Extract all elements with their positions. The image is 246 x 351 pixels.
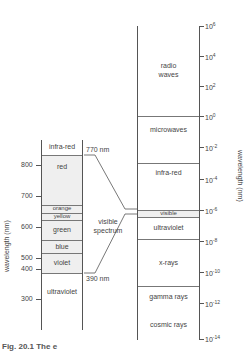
- band-label: cosmic rays: [138, 321, 199, 328]
- marker-390nm: 390 nm: [86, 275, 109, 282]
- tick-exp: 6: [213, 21, 216, 27]
- tick-mark: [199, 210, 204, 211]
- band-label: infra-red: [138, 169, 199, 176]
- tick-label: 10-8: [205, 237, 217, 246]
- tick-mark: [199, 86, 204, 87]
- tick-mark: [199, 116, 204, 117]
- tick-exp: -2: [213, 143, 217, 149]
- tick-label: 10-14: [205, 334, 220, 343]
- band-infra-red-em: infra-red: [138, 163, 199, 210]
- tick-base: 10: [205, 54, 213, 61]
- tick-exp: -10: [213, 268, 220, 274]
- tick-exp: 4: [213, 52, 216, 58]
- tick-base: 10: [205, 114, 213, 121]
- tick-exp: 0: [213, 112, 216, 118]
- tick-exp: -4: [213, 175, 217, 181]
- tick-mark: [199, 303, 204, 304]
- tick-label: 10-4: [205, 175, 217, 184]
- tick-mark: [199, 179, 204, 180]
- band-label: radio: [138, 62, 199, 69]
- tick-mark: [199, 56, 204, 57]
- tick-base: 10: [205, 301, 213, 308]
- tick-mark: [199, 241, 204, 242]
- band-label: waves: [138, 71, 199, 78]
- band-cosmic-rays: cosmic rays: [138, 312, 199, 340]
- band-label: microwaves: [138, 126, 199, 133]
- tick-base: 10: [205, 84, 213, 91]
- band-label: ultraviolet: [138, 224, 199, 231]
- tick-label: 10-6: [205, 206, 217, 215]
- visible-spectrum-label-2: spectrum: [88, 227, 128, 234]
- band-label: gamma rays: [138, 293, 199, 300]
- tick-label: 100: [205, 112, 216, 121]
- tick-label: 10-10: [205, 268, 220, 277]
- band-radio-waves: radio waves: [138, 26, 199, 116]
- tick-mark: [199, 147, 204, 148]
- figure-caption: Fig. 20.1 The e: [2, 342, 57, 351]
- band-label: x-rays: [138, 259, 199, 266]
- tick-base: 10: [205, 208, 213, 215]
- tick-label: 102: [205, 82, 216, 91]
- tick-mark: [199, 26, 204, 27]
- band-visible: visible: [138, 210, 199, 217]
- marker-770nm: 770 nm: [86, 146, 109, 153]
- tick-exp: -8: [213, 237, 217, 243]
- tick-label: 10-2: [205, 143, 217, 152]
- band-microwaves: microwaves: [138, 116, 199, 163]
- tick-exp: -6: [213, 206, 217, 212]
- right-axis-title: wavelength (nm): [237, 150, 244, 202]
- tick-base: 10: [205, 145, 213, 152]
- tick-base: 10: [205, 239, 213, 246]
- tick-label: 106: [205, 21, 216, 30]
- tick-base: 10: [205, 270, 213, 277]
- band-x-rays: x-rays: [138, 239, 199, 286]
- tick-label: 10-12: [205, 299, 220, 308]
- tick-exp: -12: [213, 299, 220, 305]
- visible-spectrum-label-1: visible: [88, 218, 128, 225]
- tick-mark: [199, 272, 204, 273]
- right-bar-right-edge: [199, 26, 200, 340]
- tick-exp: -14: [213, 334, 220, 340]
- tick-exp: 2: [213, 82, 216, 88]
- tick-base: 10: [205, 23, 213, 30]
- band-ultraviolet-em: ultraviolet: [138, 217, 199, 239]
- band-label: visible: [138, 210, 199, 216]
- tick-label: 104: [205, 52, 216, 61]
- tick-base: 10: [205, 336, 213, 343]
- band-gamma-rays: gamma rays: [138, 286, 199, 312]
- tick-mark: [199, 339, 204, 340]
- tick-base: 10: [205, 177, 213, 184]
